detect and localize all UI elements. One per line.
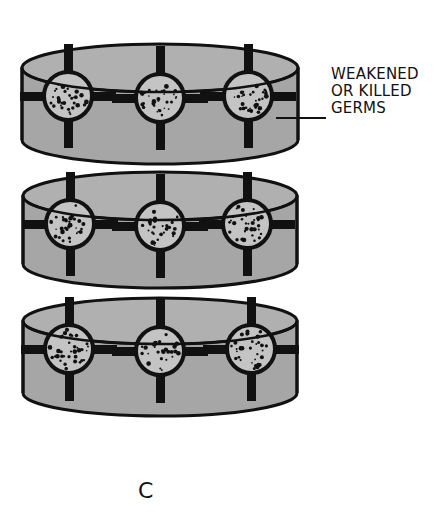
label-line-3: GERMS [331,100,419,117]
label-line-2: OR KILLED [331,83,419,100]
dish-top [20,44,298,164]
figure-caption: C [138,478,153,503]
label-line-1: WEAKENED [331,66,419,83]
weakened-or-killed-germs-label: WEAKENED OR KILLED GERMS [331,66,419,117]
dish-bottom [21,297,299,416]
dish-middle [22,172,297,288]
